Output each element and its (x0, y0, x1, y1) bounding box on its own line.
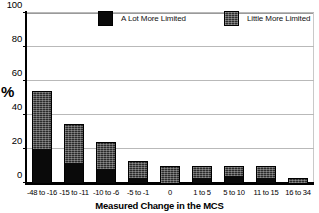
legend-item-little-more-limited: Little More Limited (224, 11, 310, 26)
x-axis-tick-label: -48 to -16 (26, 188, 58, 197)
y-axis-tick-label: 40 (0, 102, 22, 111)
bar-segment-little-more-limited (96, 142, 116, 169)
bar-7 (224, 166, 244, 183)
bar-segment-a-lot-more-limited (64, 163, 84, 183)
bar-8 (256, 166, 276, 183)
bar-segment-little-more-limited (128, 161, 148, 178)
bar-segment-little-more-limited (64, 124, 84, 163)
x-axis-tick-label: 5 to 10 (218, 188, 250, 197)
x-axis-tick-label: 0 (154, 188, 186, 197)
bar-segment-little-more-limited (160, 166, 180, 183)
bar-segment-little-more-limited (288, 178, 308, 183)
bar-3 (96, 142, 116, 183)
x-axis-title: Measured Change in the MCS (0, 201, 319, 212)
x-axis-tick-label: 11 to 15 (250, 188, 282, 197)
x-axis-title-text: Measured Change in the MCS (0, 201, 319, 211)
x-axis-tick-labels: -48 to -16-15 to -11-10 to -6-5 to -101 … (26, 188, 314, 200)
x-axis-tick-label: -5 to -1 (122, 188, 154, 197)
bar-segment-a-lot-more-limited (96, 169, 116, 183)
legend-label-little-more-limited: Little More Limited (247, 14, 310, 23)
bar-segment-a-lot-more-limited (224, 176, 244, 183)
bar-segment-little-more-limited (224, 166, 244, 176)
y-axis-tick-label: 100 (0, 0, 22, 9)
bar-segment-little-more-limited (256, 166, 276, 178)
x-axis-tick-label: 16 to 34 (282, 188, 314, 197)
bars-layer (26, 13, 314, 183)
y-axis-tick-label: 0 (0, 170, 22, 179)
x-axis-tick-label: -15 to -11 (58, 188, 90, 197)
y-axis-tick-label: 60 (0, 68, 22, 77)
y-axis-tick-label: 80 (0, 34, 22, 43)
bar-segment-a-lot-more-limited (128, 178, 148, 183)
bar-segment-little-more-limited (32, 91, 52, 149)
bar-segment-a-lot-more-limited (192, 178, 212, 183)
bar-4 (128, 161, 148, 183)
bar-9 (288, 178, 308, 183)
legend-swatch-icon-dark (98, 11, 113, 26)
y-axis-tick-label: 20 (0, 136, 22, 145)
legend-spacer (186, 18, 224, 19)
bar-chart: 020406080100 % A Lot More Limited Little… (0, 0, 319, 213)
x-axis-tick-label: 1 to 5 (186, 188, 218, 197)
legend-label-a-lot-more-limited: A Lot More Limited (121, 14, 186, 23)
bar-6 (192, 166, 212, 183)
bar-2 (64, 124, 84, 183)
bar-1 (32, 91, 52, 183)
y-axis-title: % (1, 84, 14, 99)
x-axis-tick-label: -10 to -6 (90, 188, 122, 197)
bar-segment-a-lot-more-limited (32, 149, 52, 183)
legend-swatch-icon-gray (224, 11, 239, 26)
chart-legend: A Lot More Limited Little More Limited (98, 11, 310, 26)
bar-segment-little-more-limited (192, 166, 212, 178)
bar-5 (160, 166, 180, 183)
legend-item-a-lot-more-limited: A Lot More Limited (98, 11, 186, 26)
bar-segment-a-lot-more-limited (256, 178, 276, 183)
